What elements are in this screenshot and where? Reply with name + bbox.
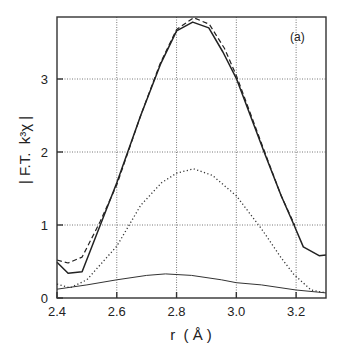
x-tick-label: 3.0 — [227, 304, 245, 319]
y-tick-label: 0 — [41, 291, 48, 306]
x-axis-ticks: 2.42.62.83.03.2 — [48, 292, 305, 319]
plot-frame — [57, 17, 326, 298]
x-tick-label: 3.2 — [287, 304, 305, 319]
series-solid-line — [57, 22, 326, 273]
x-tick-label: 2.8 — [168, 304, 186, 319]
y-tick-label: 2 — [41, 145, 48, 160]
y-tick-label: 1 — [41, 218, 48, 233]
y-axis-label: | F.T. k³χ | — [16, 116, 33, 184]
x-tick-label: 2.4 — [48, 304, 66, 319]
data-series — [57, 18, 326, 293]
y-tick-label: 3 — [41, 72, 48, 87]
grid-lines — [57, 17, 326, 298]
series-thin-line — [57, 274, 326, 293]
panel-label: (a) — [290, 30, 305, 44]
x-axis-label: r ( Å ) — [170, 326, 212, 343]
chart: 2.42.62.83.03.2 0123 (a) r ( Å ) | F.T. … — [0, 0, 339, 356]
x-tick-label: 2.6 — [108, 304, 126, 319]
y-axis-ticks: 0123 — [41, 72, 63, 306]
